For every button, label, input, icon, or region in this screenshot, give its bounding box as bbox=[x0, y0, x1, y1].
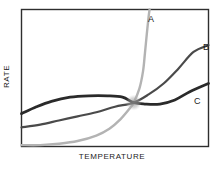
curve-label-a: A bbox=[148, 14, 154, 24]
x-axis-label: TEMPERATURE bbox=[0, 152, 224, 161]
curve-label-c: C bbox=[194, 96, 201, 106]
y-axis-label: RATE bbox=[2, 55, 11, 99]
intersection-marker bbox=[126, 95, 142, 111]
plot-frame bbox=[22, 10, 209, 147]
rate-vs-temperature-chart: A B C TEMPERATURE RATE bbox=[0, 0, 224, 172]
plot-area bbox=[0, 0, 224, 172]
curve-label-b: B bbox=[203, 42, 209, 52]
